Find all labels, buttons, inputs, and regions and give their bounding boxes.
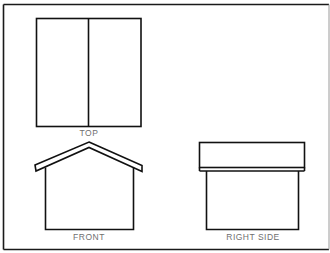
- right-roof: [200, 143, 305, 168]
- front-roof: [35, 142, 142, 172]
- top-view-label: TOP: [80, 129, 99, 138]
- right-side-view: [200, 143, 305, 230]
- right-walls: [207, 171, 299, 230]
- right-side-view-label: RIGHT SIDE: [226, 233, 280, 242]
- top-view: [37, 19, 142, 127]
- front-view-label: FRONT: [73, 233, 105, 242]
- front-walls: [46, 168, 134, 230]
- front-view: [35, 142, 142, 230]
- orthographic-drawing: [0, 0, 330, 253]
